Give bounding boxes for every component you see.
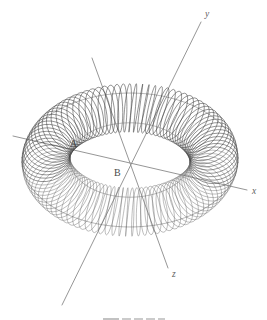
coil-winding (180, 168, 222, 211)
torus-coil-group (22, 84, 238, 237)
x-axis-label: x (251, 186, 257, 196)
coil-winding (175, 173, 213, 217)
point-label-b: B (114, 167, 121, 178)
figure-root: x y z A B toroidal-coil-with-coordinate-… (0, 0, 267, 320)
point-label-a: A (70, 138, 78, 149)
coil-winding (132, 188, 141, 237)
y-axis-label: y (204, 9, 210, 19)
toroidal-coil-diagram: x y z A B (0, 0, 267, 320)
caption-strip (0, 306, 267, 320)
z-axis-label: z (171, 269, 176, 279)
axis-lines-group (13, 22, 247, 305)
torus-guide-circle (70, 123, 190, 197)
coil-winding (138, 84, 148, 133)
coil-winding (126, 188, 134, 237)
coil-winding (182, 165, 225, 208)
coil-winding (127, 84, 134, 132)
coil-winding (160, 91, 187, 138)
z-axis-line (92, 58, 168, 268)
coil-winding (189, 147, 237, 187)
coil-winding (167, 95, 199, 141)
y-axis-line (62, 22, 201, 305)
coil-winding (190, 144, 238, 184)
